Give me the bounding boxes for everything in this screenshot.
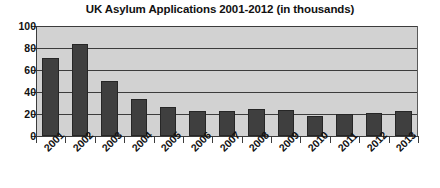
x-axis-tick-mark (124, 137, 125, 143)
gridline (36, 70, 417, 71)
x-axis-tick-mark (418, 137, 419, 143)
x-axis-tick-mark (271, 137, 272, 143)
x-axis-tick-mark (242, 137, 243, 143)
bar-chart: UK Asylum Applications 2001-2012 (in tho… (0, 0, 440, 188)
chart-title: UK Asylum Applications 2001-2012 (in tho… (0, 3, 440, 15)
plot-area (36, 26, 418, 136)
y-axis-tick-label: 80 (8, 43, 36, 54)
y-axis-tick-label: 0 (8, 131, 36, 142)
y-axis-tick-label: 20 (8, 109, 36, 120)
y-axis-tick-label: 40 (8, 87, 36, 98)
y-axis: 020406080100 (0, 0, 36, 188)
x-axis-tick-mark (389, 137, 390, 143)
bar (72, 44, 88, 136)
gridline (36, 48, 417, 49)
x-axis-tick-mark (154, 137, 155, 143)
y-axis-tick-label: 60 (8, 65, 36, 76)
bar (42, 58, 58, 136)
x-axis-tick-mark (183, 137, 184, 143)
x-axis-tick-mark (36, 137, 37, 143)
x-axis-tick-mark (330, 137, 331, 143)
y-axis-line (36, 26, 37, 137)
gridline (36, 26, 417, 27)
y-axis-tick-label: 100 (8, 21, 36, 32)
gridline (36, 92, 417, 93)
x-axis-tick-mark (95, 137, 96, 143)
